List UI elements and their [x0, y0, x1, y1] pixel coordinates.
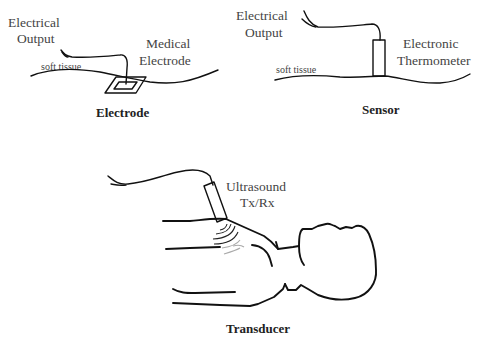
- body-arm-line: [166, 247, 220, 249]
- transducer-caption: Transducer: [226, 321, 290, 336]
- body-jaw-line: [299, 246, 304, 265]
- sensor-panel: Electrical Output Electronic Thermometer…: [236, 8, 471, 117]
- sensor-caption: Sensor: [362, 102, 400, 117]
- body-arm-curve: [252, 245, 272, 266]
- electrode-device-label-line1: Medical: [146, 36, 190, 51]
- electrode-tissue-label: soft tissue: [41, 61, 82, 72]
- sensor-tissue-label: soft tissue: [276, 64, 317, 75]
- electrode-device-label-line2: Electrode: [139, 53, 191, 68]
- transducer-device-label-line1: Ultrasound: [226, 179, 286, 194]
- diagram-canvas: Electrical Output Medical Electrode soft…: [0, 0, 480, 348]
- sensor-device-label-line2: Thermometer: [397, 53, 471, 68]
- sensor-wire: [304, 11, 380, 40]
- ultrasound-waves: [213, 224, 244, 254]
- sensor-output-label-line2: Output: [245, 25, 283, 40]
- body-neck-top: [276, 242, 299, 249]
- electrode-pad-outer: [105, 77, 146, 93]
- electrode-output-label-line1: Electrical: [8, 15, 60, 30]
- thermometer-body: [373, 40, 385, 76]
- electrode-output-label-line2: Output: [17, 31, 55, 46]
- body-back-line: [173, 284, 285, 306]
- sensor-output-label-line1: Electrical: [236, 8, 288, 23]
- ultrasound-probe: [204, 182, 227, 222]
- sensor-device-label-line1: Electronic: [403, 36, 458, 51]
- transducer-panel: Ultrasound Tx/Rx Transducer: [108, 170, 376, 336]
- transducer-device-label-line2: Tx/Rx: [240, 195, 275, 210]
- body-head-outline: [285, 224, 376, 300]
- body-lower-line: [173, 289, 235, 293]
- electrode-panel: Electrical Output Medical Electrode soft…: [8, 15, 218, 120]
- electrode-caption: Electrode: [96, 105, 149, 120]
- transducer-cable: [108, 170, 213, 185]
